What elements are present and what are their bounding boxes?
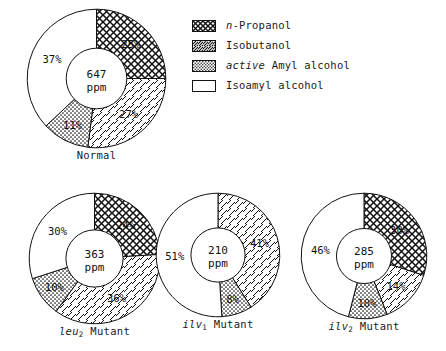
legend-item-isoamyl-alcohol: Isoamyl alcohol xyxy=(192,77,432,94)
pie-chart-leu2-mutant: 363ppm24%36%10%30% leu2 Mutant xyxy=(28,192,161,337)
pie-chart-ilv2-mutant: 285ppm30%14%10%46% ilv2 Mutant xyxy=(300,192,428,332)
pie-svg: 363ppm24%36%10%30% xyxy=(28,192,161,325)
pie-slice-label: 11% xyxy=(63,119,83,131)
pie-chart-canvas: 363ppm24%36%10%30% xyxy=(28,192,161,325)
pie-slice-label: 27% xyxy=(119,108,139,120)
legend-swatch-cross-hatch-icon xyxy=(192,20,216,32)
pie-svg: 647ppm25%27%11%37% xyxy=(26,8,167,149)
pie-center-unit: ppm xyxy=(208,257,228,270)
pie-slice-label: 8% xyxy=(226,293,239,305)
pie-chart-normal: 647ppm25%27%11%37% Normal xyxy=(26,8,167,161)
pie-chart-canvas: 285ppm30%14%10%46% xyxy=(300,192,428,320)
legend: n-Propanol Isobutanol active Amyl alcoho… xyxy=(192,17,432,97)
figure-root: n-Propanol Isobutanol active Amyl alcoho… xyxy=(0,0,446,351)
pie-center-value: 647 xyxy=(87,68,107,81)
legend-swatch-diagonal-icon xyxy=(192,40,216,52)
pie-chart-caption: ilv2 Mutant xyxy=(300,321,428,332)
legend-swatch-dotted-icon xyxy=(192,60,216,72)
pie-center-unit: ppm xyxy=(87,81,107,94)
pie-chart-canvas: 210ppm41%8%51% xyxy=(155,192,281,318)
pie-slice-label: 30% xyxy=(48,225,68,237)
legend-label-isoamyl-alcohol: Isoamyl alcohol xyxy=(226,80,324,91)
legend-item-isobutanol: Isobutanol xyxy=(192,37,432,54)
pie-slice-label: 36% xyxy=(107,292,127,304)
pie-slice-label: 24% xyxy=(116,219,136,231)
pie-chart-canvas: 647ppm25%27%11%37% xyxy=(26,8,167,149)
pie-chart-caption: ilv1 Mutant xyxy=(155,319,281,330)
pie-center-value: 363 xyxy=(85,248,105,261)
pie-center-unit: ppm xyxy=(354,258,374,271)
pie-slice-label: 30% xyxy=(390,224,410,236)
pie-chart-caption: leu2 Mutant xyxy=(28,326,161,337)
legend-label-n-propanol: n-Propanol xyxy=(226,20,291,31)
pie-slice-label: 14% xyxy=(387,280,407,292)
pie-slice-label: 41% xyxy=(250,237,270,249)
pie-center-value: 285 xyxy=(354,245,374,258)
legend-item-n-propanol: n-Propanol xyxy=(192,17,432,34)
pie-slice-label: 51% xyxy=(165,250,185,262)
pie-svg: 285ppm30%14%10%46% xyxy=(300,192,428,320)
legend-swatch-blank-icon xyxy=(192,80,216,92)
pie-slice-label: 46% xyxy=(311,244,331,256)
legend-item-active-amyl-alcohol: active Amyl alcohol xyxy=(192,57,432,74)
pie-chart-caption: Normal xyxy=(26,150,167,161)
pie-slice-label: 37% xyxy=(42,53,62,65)
pie-chart-ilv1-mutant: 210ppm41%8%51% ilv1 Mutant xyxy=(155,192,281,330)
pie-slice-label: 25% xyxy=(121,38,141,50)
pie-slice-label: 10% xyxy=(45,281,65,293)
legend-label-isobutanol: Isobutanol xyxy=(226,40,291,51)
pie-center-value: 210 xyxy=(208,244,228,257)
pie-center-unit: ppm xyxy=(85,261,105,274)
legend-label-active-amyl-alcohol: active Amyl alcohol xyxy=(226,60,350,71)
pie-slice-label: 10% xyxy=(358,297,378,309)
pie-svg: 210ppm41%8%51% xyxy=(155,192,281,318)
